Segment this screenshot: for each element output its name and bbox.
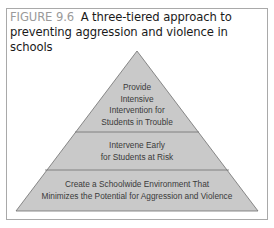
tier-bottom-line: Minimizes the Potential for Aggression a… <box>22 191 252 203</box>
tier-top-line: Intensive <box>87 94 187 106</box>
tier-middle-text: Intervene Early for Students at Risk <box>77 140 197 163</box>
tier-top-line: Students in Trouble <box>87 117 187 129</box>
tier-top-line: Provide <box>87 82 187 94</box>
tier-top-line: Intervention for <box>87 105 187 117</box>
tier-bottom-line: Create a Schoolwide Environment That <box>22 179 252 191</box>
tier-middle-line: for Students at Risk <box>77 152 197 164</box>
tier-middle-line: Intervene Early <box>77 140 197 152</box>
tier-top-text: Provide Intensive Intervention for Stude… <box>87 82 187 128</box>
tier-bottom-text: Create a Schoolwide Environment That Min… <box>22 179 252 202</box>
